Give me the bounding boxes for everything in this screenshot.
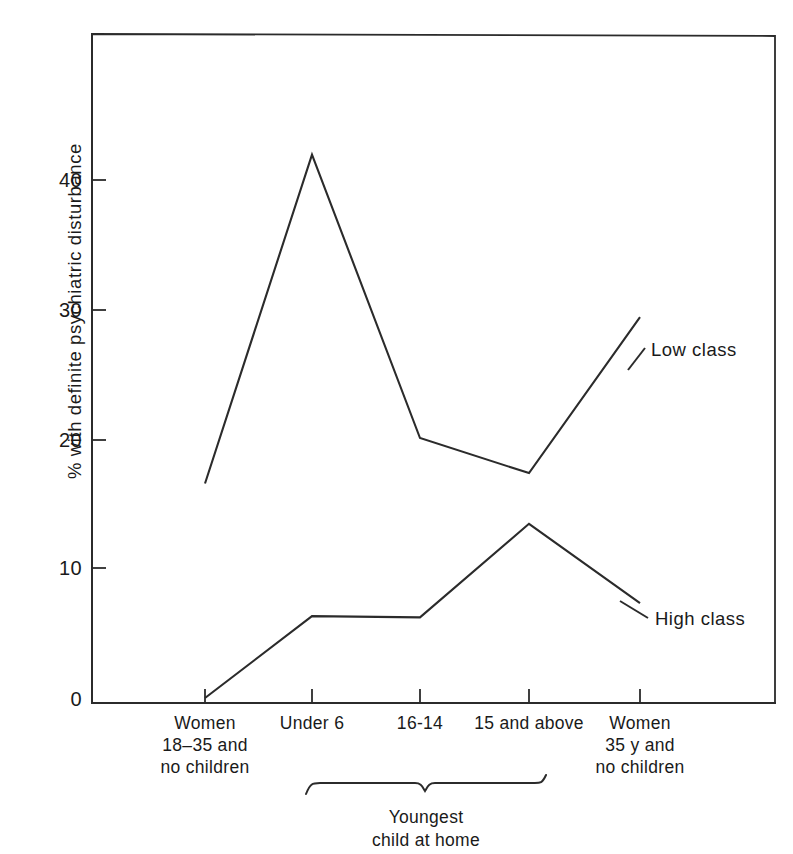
x-tick-label-1-line2: 18–35 and <box>130 734 280 756</box>
x-tick-label-2-line1: Under 6 <box>247 712 377 734</box>
x-tick-label-5-line1: Women <box>565 712 715 734</box>
y-axis-title: % with definite psychiatric disturbance <box>64 96 86 526</box>
y-tick-label-10: 10 <box>38 557 82 580</box>
category-group-caption-line1: Youngest <box>326 806 526 829</box>
leader-low-class <box>628 348 645 370</box>
series-label-low-class: Low class <box>651 339 737 361</box>
leader-high-class <box>620 601 648 618</box>
x-tick-label-group-5: Women 35 y and no children <box>565 712 715 778</box>
x-tick-marks <box>205 689 640 703</box>
x-tick-label-1-line3: no children <box>130 756 280 778</box>
chart-figure: 40 30 20 10 0 % with definite psychiatri… <box>0 0 793 854</box>
series-line-low-class <box>205 155 640 484</box>
series-line-high-class <box>205 524 640 698</box>
plot-frame <box>92 34 775 703</box>
x-tick-label-group-2: Under 6 <box>247 712 377 734</box>
x-tick-label-5-line3: no children <box>565 756 715 778</box>
series-label-high-class: High class <box>655 608 745 630</box>
y-tick-marks <box>92 180 106 568</box>
category-group-caption-line2: child at home <box>326 829 526 852</box>
category-group-caption: Youngest child at home <box>326 806 526 852</box>
x-tick-label-5-line2: 35 y and <box>565 734 715 756</box>
y-tick-label-0: 0 <box>38 688 82 711</box>
category-group-bracket <box>306 775 546 794</box>
